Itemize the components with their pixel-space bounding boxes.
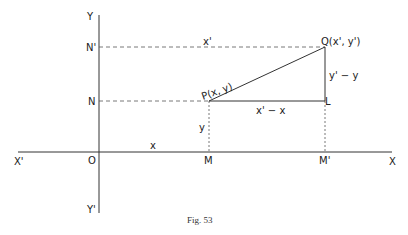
label-segment-lq: y' − y xyxy=(329,70,358,81)
label-l: L xyxy=(325,96,331,107)
label-n: N xyxy=(88,96,95,107)
label-segment-om: x xyxy=(150,140,156,151)
label-segment-n-prime-q: x' xyxy=(203,36,212,47)
label-n-prime: N' xyxy=(86,42,96,53)
label-origin: O xyxy=(88,155,96,166)
label-q: Q(x', y') xyxy=(321,36,360,47)
coordinate-diagram: Y Y' X X' O N' N M M' L Q(x', y') P(x, y… xyxy=(0,0,408,235)
label-m: M xyxy=(204,155,213,166)
label-segment-pm: y xyxy=(199,122,205,133)
label-m-prime: M' xyxy=(319,155,330,166)
label-y: Y xyxy=(86,11,94,22)
label-p: P(x, y) xyxy=(200,81,234,102)
label-segment-pl: x' − x xyxy=(256,105,285,116)
label-y-prime: Y' xyxy=(86,204,96,215)
figure-caption: Fig. 53 xyxy=(187,215,213,225)
label-x: X xyxy=(389,156,396,167)
label-x-prime: X' xyxy=(14,156,24,167)
